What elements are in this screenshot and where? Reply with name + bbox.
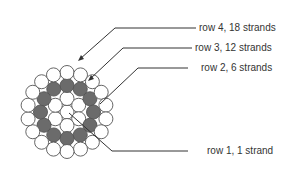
leader-row4 (80, 28, 196, 59)
strand-row3 (87, 105, 101, 119)
strand-row4 (60, 145, 74, 159)
strand-row4 (26, 125, 40, 139)
label-row4: row 4, 18 strands (199, 22, 276, 33)
strand-row3 (60, 132, 74, 146)
strand-circles (21, 66, 113, 159)
strand-row4 (99, 98, 113, 112)
strand-row4 (94, 85, 108, 99)
leader-row2 (100, 68, 188, 104)
strand-row3 (73, 128, 87, 142)
strand-row3 (47, 82, 61, 96)
label-row2: row 2, 6 strands (201, 62, 272, 73)
strand-row3 (60, 79, 74, 93)
strand-row4 (74, 142, 88, 156)
leader-row3 (90, 48, 192, 79)
strand-row4 (99, 112, 113, 126)
strand-row4 (46, 68, 60, 82)
label-row1: row 1, 1 strand (207, 145, 273, 156)
strand-row4 (21, 98, 35, 112)
strand-row4 (21, 112, 35, 126)
strand-row3 (34, 105, 48, 119)
label-row3: row 3, 12 strands (195, 42, 272, 53)
strand-row4 (60, 66, 74, 80)
leader-lines (69, 28, 196, 151)
